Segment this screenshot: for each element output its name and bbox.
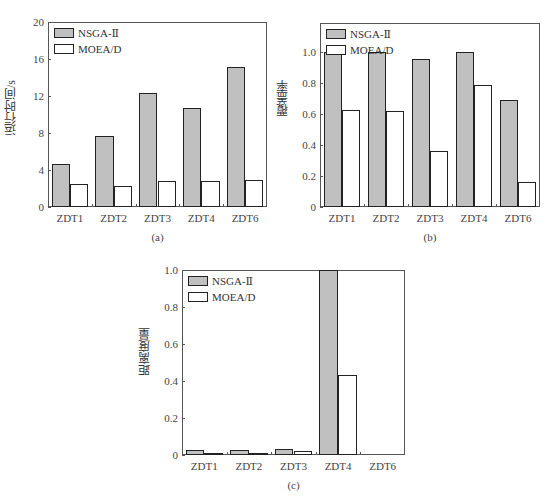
x-tick-label: ZDT1 bbox=[48, 212, 92, 224]
y-tick-label: 16 bbox=[14, 53, 44, 65]
bar-moead bbox=[474, 85, 492, 207]
y-axis-label: 运行时间/s bbox=[2, 80, 19, 136]
y-tick-label: 0.8 bbox=[148, 301, 178, 313]
x-tick-mark bbox=[316, 452, 317, 455]
bar-nsga2 bbox=[456, 52, 474, 207]
legend-label: MOEA/D bbox=[78, 43, 121, 55]
bar-moead bbox=[204, 453, 223, 455]
bar-nsga2 bbox=[183, 108, 201, 207]
y-tick-mark bbox=[182, 270, 185, 271]
y-tick-mark bbox=[48, 22, 51, 23]
y-tick-label: 20 bbox=[14, 16, 44, 28]
legend: NSGA-ⅡMOEA/D bbox=[54, 25, 121, 57]
y-tick-label: 0.4 bbox=[148, 375, 178, 387]
y-tick-mark bbox=[48, 96, 51, 97]
y-tick-label: 1.0 bbox=[286, 46, 316, 58]
bar-moead bbox=[294, 451, 313, 455]
x-tick-mark bbox=[408, 204, 409, 207]
x-tick-mark bbox=[136, 204, 137, 207]
bar-moead bbox=[158, 181, 176, 207]
x-tick-label: ZDT1 bbox=[320, 212, 364, 224]
y-tick-label: 0 bbox=[14, 201, 44, 213]
x-tick-label: ZDT4 bbox=[452, 212, 496, 224]
x-tick-mark bbox=[92, 204, 93, 207]
y-tick-mark bbox=[182, 381, 185, 382]
y-tick-mark bbox=[48, 59, 51, 60]
bar-nsga2 bbox=[368, 52, 386, 207]
bar-nsga2 bbox=[227, 67, 245, 207]
bar-moead bbox=[114, 186, 132, 207]
x-tick-label: ZDT6 bbox=[496, 212, 540, 224]
bar-nsga2 bbox=[275, 449, 294, 455]
bar-nsga2 bbox=[230, 450, 249, 455]
legend-item-nsga2: NSGA-Ⅱ bbox=[326, 26, 393, 42]
y-tick-mark bbox=[48, 133, 51, 134]
y-tick-label: 0 bbox=[286, 201, 316, 213]
x-tick-mark bbox=[364, 204, 365, 207]
legend-label: MOEA/D bbox=[212, 291, 255, 303]
legend-swatch-white bbox=[54, 44, 74, 54]
bar-nsga2 bbox=[319, 270, 338, 455]
legend: NSGA-ⅡMOEA/D bbox=[326, 26, 393, 58]
legend-swatch-gray bbox=[326, 29, 346, 39]
x-tick-mark bbox=[227, 452, 228, 455]
legend-item-moead: MOEA/D bbox=[326, 42, 393, 58]
x-tick-label: ZDT3 bbox=[272, 460, 316, 472]
bar-nsga2 bbox=[412, 59, 430, 207]
bar-nsga2 bbox=[324, 52, 342, 207]
x-tick-mark bbox=[452, 204, 453, 207]
bar-moead bbox=[518, 182, 536, 207]
figure-caption: (c) bbox=[274, 479, 314, 491]
y-tick-label: 0.4 bbox=[286, 139, 316, 151]
y-tick-mark bbox=[48, 207, 51, 208]
x-tick-mark bbox=[360, 452, 361, 455]
figure-caption: (a) bbox=[138, 231, 178, 243]
y-tick-mark bbox=[182, 344, 185, 345]
y-tick-mark bbox=[182, 418, 185, 419]
legend-item-moead: MOEA/D bbox=[54, 41, 121, 57]
legend-swatch-white bbox=[188, 292, 208, 302]
bar-nsga2 bbox=[500, 100, 518, 207]
x-tick-label: ZDT3 bbox=[136, 212, 180, 224]
x-tick-label: ZDT6 bbox=[223, 212, 267, 224]
x-tick-label: ZDT4 bbox=[179, 212, 223, 224]
legend-item-nsga2: NSGA-Ⅱ bbox=[188, 273, 255, 289]
x-tick-mark bbox=[223, 204, 224, 207]
x-tick-label: ZDT2 bbox=[92, 212, 136, 224]
x-tick-label: ZDT4 bbox=[316, 460, 360, 472]
bar-nsga2 bbox=[52, 164, 70, 207]
y-axis-label: 覆盖率 bbox=[274, 80, 291, 116]
legend-item-nsga2: NSGA-Ⅱ bbox=[54, 25, 121, 41]
y-tick-mark bbox=[182, 307, 185, 308]
bar-moead bbox=[338, 375, 357, 455]
legend-label: NSGA-Ⅱ bbox=[350, 28, 391, 41]
bar-nsga2 bbox=[95, 136, 113, 207]
x-tick-label: ZDT2 bbox=[364, 212, 408, 224]
legend-swatch-white bbox=[326, 45, 346, 55]
bar-moead bbox=[386, 111, 404, 207]
bar-moead bbox=[342, 110, 360, 207]
y-tick-label: 4 bbox=[14, 164, 44, 176]
legend-label: NSGA-Ⅱ bbox=[78, 27, 119, 40]
bar-nsga2 bbox=[139, 93, 157, 207]
y-tick-label: 0.2 bbox=[286, 170, 316, 182]
y-tick-mark bbox=[182, 455, 185, 456]
y-tick-label: 0 bbox=[148, 449, 178, 461]
legend: NSGA-ⅡMOEA/D bbox=[188, 273, 255, 305]
figure-caption: (b) bbox=[410, 231, 450, 243]
y-axis-label: 距离度量 bbox=[136, 328, 153, 376]
bar-moead bbox=[249, 453, 268, 455]
y-tick-label: 0.2 bbox=[148, 412, 178, 424]
x-tick-mark bbox=[271, 452, 272, 455]
x-tick-label: ZDT6 bbox=[361, 460, 405, 472]
x-tick-label: ZDT2 bbox=[227, 460, 271, 472]
legend-label: MOEA/D bbox=[350, 44, 393, 56]
legend-label: NSGA-Ⅱ bbox=[212, 275, 253, 288]
legend-swatch-gray bbox=[188, 276, 208, 286]
x-tick-label: ZDT1 bbox=[182, 460, 226, 472]
x-tick-mark bbox=[179, 204, 180, 207]
bar-nsga2 bbox=[186, 450, 205, 455]
legend-item-moead: MOEA/D bbox=[188, 289, 255, 305]
y-tick-label: 1.0 bbox=[148, 264, 178, 276]
y-tick-mark bbox=[320, 207, 323, 208]
